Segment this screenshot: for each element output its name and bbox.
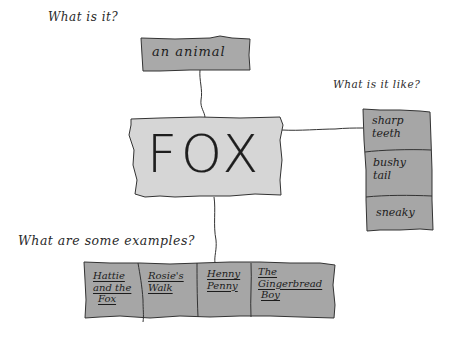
node-line: Walk [148,282,184,294]
node-line: sharp [372,115,404,128]
node-the-gingerbread-boy: The Gingerbread Boy [258,266,322,301]
question-what-is-it-like: What is it like? [333,78,420,90]
node-line: bushy [373,157,406,170]
connector-right [282,128,363,130]
node-line: Henny [207,268,240,280]
node-an-animal: an animal [152,45,226,60]
node-line: Rosie's [148,270,184,282]
node-line: and the [93,282,131,294]
node-line: Boy [258,289,322,301]
node-sneaky: sneaky [376,207,415,220]
node-rosies-walk: Rosie's Walk [148,270,184,293]
node-bushy-tail: bushy tail [373,157,406,182]
node-line: Fox [93,293,131,305]
connector-bottom [214,197,216,263]
divider-examples-3 [251,263,252,317]
question-examples: What are some examples? [18,233,195,248]
question-what-is-it: What is it? [48,10,118,24]
node-line: Penny [207,280,240,292]
node-hattie-and-the-fox: Hattie and the Fox [93,270,131,305]
node-line: tail [373,170,406,183]
node-henny-penny: Henny Penny [207,268,240,291]
node-line: Hattie [93,270,131,282]
concept-map: What is it? What is it like? What are so… [0,0,449,337]
node-sharp-teeth: sharp teeth [372,115,404,140]
connector-top [200,70,205,118]
node-fox: FOX [147,124,262,184]
node-line: The [258,266,322,278]
node-line: teeth [372,128,404,141]
node-line: Gingerbread [258,278,322,290]
